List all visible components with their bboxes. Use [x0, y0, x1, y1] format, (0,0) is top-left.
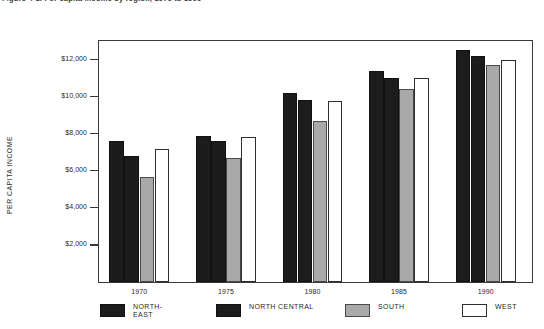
plot-area: $2,000$4,000$6,000$8,000$10,000$12,000 1… — [98, 40, 533, 283]
y-axis-tick-mark — [90, 96, 99, 97]
y-axis-tick-mark — [90, 244, 99, 245]
y-axis-tick-label: $10,000 — [61, 92, 87, 99]
bar[interactable] — [313, 121, 328, 282]
bar-groups: 19701975198019851990 — [99, 41, 532, 282]
bar-chart-figure: PER CAPITA INCOME $2,000$4,000$6,000$8,0… — [0, 0, 544, 329]
y-axis-tick-mark — [90, 170, 99, 171]
bar[interactable] — [456, 50, 471, 282]
bar[interactable] — [486, 65, 501, 282]
y-axis-tick-label: $6,000 — [65, 166, 87, 173]
bar[interactable] — [298, 100, 313, 282]
legend-label: NORTH CENTRAL — [249, 303, 314, 311]
legend-swatch — [345, 304, 370, 317]
bar[interactable] — [124, 156, 139, 282]
bar-group: 1970 — [109, 41, 169, 282]
x-axis-tick-label: 1990 — [456, 288, 516, 295]
bar-group: 1975 — [196, 41, 256, 282]
bar-group: 1985 — [369, 41, 429, 282]
legend-swatch — [100, 304, 125, 317]
legend-swatch — [216, 304, 241, 317]
x-axis-tick-label: 1975 — [196, 288, 256, 295]
y-axis-tick-label: $12,000 — [61, 55, 87, 62]
y-axis-title: PER CAPITA INCOME — [0, 110, 18, 240]
legend-item[interactable]: WEST — [462, 303, 517, 317]
bar[interactable] — [399, 89, 414, 282]
bar[interactable] — [283, 93, 298, 282]
x-axis-tick-label: 1980 — [283, 288, 343, 295]
bar[interactable] — [328, 101, 343, 282]
bar[interactable] — [226, 158, 241, 282]
bar-group: 1990 — [456, 41, 516, 282]
y-axis-tick-label: $4,000 — [65, 203, 87, 210]
y-axis-tick-mark — [90, 59, 99, 60]
bar[interactable] — [384, 78, 399, 282]
bar[interactable] — [196, 136, 211, 282]
legend-label: WEST — [495, 303, 517, 311]
bar[interactable] — [140, 177, 155, 282]
x-axis-tick-label: 1985 — [369, 288, 429, 295]
y-axis-tick-label: $2,000 — [65, 240, 87, 247]
y-axis-tick-mark — [90, 207, 99, 208]
bar[interactable] — [155, 149, 170, 282]
legend-item[interactable]: NORTH- EAST — [100, 303, 163, 319]
bar[interactable] — [211, 141, 226, 282]
legend-item[interactable]: NORTH CENTRAL — [216, 303, 314, 317]
bar[interactable] — [471, 56, 486, 282]
x-axis-tick-label: 1970 — [109, 288, 169, 295]
legend-label: SOUTH — [378, 303, 405, 311]
y-axis-tick-mark — [90, 133, 99, 134]
bar[interactable] — [414, 78, 429, 282]
bar[interactable] — [501, 60, 516, 282]
legend-label: NORTH- EAST — [133, 303, 163, 319]
legend-item[interactable]: SOUTH — [345, 303, 405, 317]
bar[interactable] — [241, 137, 256, 282]
y-axis-tick-label: $8,000 — [65, 129, 87, 136]
bar[interactable] — [109, 141, 124, 282]
bar-group: 1980 — [283, 41, 343, 282]
chart-legend: NORTH- EASTNORTH CENTRALSOUTHWEST — [100, 303, 540, 327]
y-axis-title-text: PER CAPITA INCOME — [6, 136, 13, 214]
legend-swatch — [462, 304, 487, 317]
bar[interactable] — [369, 71, 384, 282]
